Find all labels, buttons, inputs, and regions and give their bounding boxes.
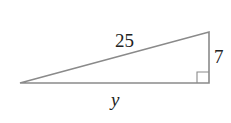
vertical-leg-label: 7 <box>214 46 224 67</box>
hypotenuse-label: 25 <box>115 30 134 51</box>
right-triangle-diagram: 25 7 y <box>0 0 231 123</box>
horizontal-leg-label: y <box>109 89 120 110</box>
right-angle-marker <box>197 72 209 83</box>
